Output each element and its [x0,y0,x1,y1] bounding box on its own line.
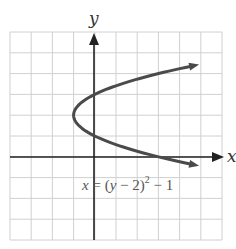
y-axis-arrow-icon [89,33,99,45]
parabola-graph: y x x = (y − 2)2 − 1 [0,0,236,249]
curve-arrow-top-icon [188,63,199,71]
x-axis-label: x [227,146,236,166]
y-axis-label: y [88,8,99,28]
equation-label: x = (y − 2)2 − 1 [81,174,173,194]
curve-arrow-bottom-icon [188,160,199,168]
